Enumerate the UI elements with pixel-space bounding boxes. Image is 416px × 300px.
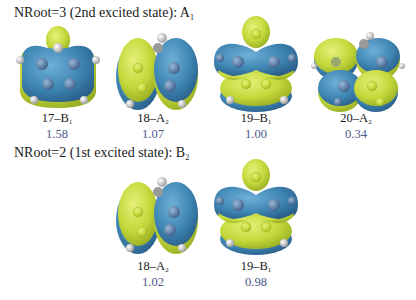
orbital-19-b1	[208, 12, 304, 114]
orbital-label: 19–B1	[221, 112, 291, 128]
orbital-18-a2	[108, 24, 204, 114]
heading-subscript: 1	[190, 13, 194, 22]
occupation-value: 0.34	[321, 128, 391, 140]
heading-text: NRoot=2 (1st excited state): B	[14, 145, 185, 160]
orbital-label: 17–B1	[22, 112, 92, 128]
orbital-caption-19-b1: 19–B1 1.00	[221, 112, 291, 140]
orbital-caption-19-b1-state2: 19–B1 0.98	[221, 260, 291, 288]
orbital-caption-20-a2: 20–A2 0.34	[321, 112, 391, 140]
orbital-label: 19–B1	[221, 260, 291, 276]
orbital-19-b1-state2	[208, 154, 304, 258]
orbital-label: 18–A2	[118, 112, 188, 128]
orbital-20-a2	[310, 26, 406, 116]
occupation-value: 1.00	[221, 128, 291, 140]
orbital-caption-18-a2-state2: 18–A2 1.02	[118, 260, 188, 288]
occupation-value: 1.02	[118, 276, 188, 288]
occupation-value: 1.07	[118, 128, 188, 140]
orbital-label: 20–A2	[321, 112, 391, 128]
occupation-value: 1.58	[22, 128, 92, 140]
orbital-17-b1	[12, 22, 102, 112]
orbital-label: 18–A2	[118, 260, 188, 276]
orbital-caption-18-a2: 18–A2 1.07	[118, 112, 188, 140]
occupation-value: 0.98	[221, 276, 291, 288]
orbital-18-a2-state2	[108, 168, 204, 258]
heading-text: NRoot=3 (2nd excited state): A	[14, 5, 190, 20]
section-2-heading: NRoot=2 (1st excited state): B2	[14, 145, 189, 162]
orbital-caption-17-b1: 17–B1 1.58	[22, 112, 92, 140]
section-1-heading: NRoot=3 (2nd excited state): A1	[14, 5, 194, 22]
heading-subscript: 2	[185, 153, 189, 162]
